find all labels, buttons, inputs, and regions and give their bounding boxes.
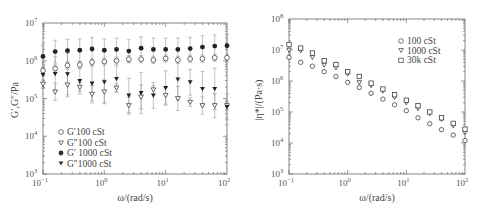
y-tick-label: 104 — [271, 136, 284, 148]
open-triangle-marker — [41, 82, 46, 86]
open-circle-marker — [225, 55, 230, 60]
right-legend: 100 cSt 1000 cSt 30k cSt — [399, 36, 441, 65]
open-circle-marker — [151, 58, 156, 63]
open-square-marker — [345, 69, 349, 73]
right-tick-labels: 10−1100101102103104105106107108 — [271, 12, 468, 188]
legend-open-circle-icon — [59, 130, 64, 135]
open-circle-marker — [41, 68, 46, 73]
y-tick-label: 108 — [271, 12, 283, 24]
right-x-axis-title: ω/(rad/s) — [359, 192, 394, 204]
filled-triangle-marker — [212, 87, 217, 91]
open-circle-marker — [369, 91, 373, 95]
filled-circle-marker — [175, 47, 180, 52]
open-square-marker — [439, 116, 443, 120]
x-tick-label: 102 — [218, 176, 230, 188]
y-tick-label: 104 — [25, 129, 38, 141]
open-square-marker — [334, 62, 338, 66]
legend-label-30kcst: 30k cSt — [407, 55, 436, 65]
filled-circle-marker — [163, 47, 168, 52]
filled-circle-marker — [151, 47, 156, 52]
filled-circle-marker — [53, 49, 58, 54]
open-circle-marker — [188, 56, 193, 61]
open-circle-marker — [90, 60, 95, 65]
legend-open-triangle-icon — [399, 49, 404, 53]
left-data-points — [41, 34, 230, 119]
legend-open-square-icon — [399, 58, 403, 62]
open-circle-marker — [345, 80, 349, 84]
filled-triangle-marker — [102, 80, 107, 84]
open-triangle-marker — [151, 88, 156, 92]
open-triangle-marker — [310, 56, 314, 60]
open-triangle-marker — [322, 63, 326, 67]
filled-triangle-marker — [200, 87, 205, 91]
open-square-marker — [322, 59, 326, 63]
open-triangle-marker — [77, 85, 82, 89]
open-square-marker — [463, 127, 467, 131]
filled-triangle-marker — [41, 73, 46, 77]
open-circle-marker — [404, 109, 408, 113]
open-triangle-marker — [188, 100, 193, 104]
legend-label-1000cst: 1000 cSt — [407, 46, 441, 56]
filled-circle-marker — [77, 48, 82, 53]
open-triangle-marker — [139, 95, 144, 99]
open-circle-marker — [334, 74, 338, 78]
right-y-axis-title: |η*|/(Pa·s) — [253, 80, 265, 121]
left-legend: G′100 cSt G″100 cSt G′ 1000 cSt G″1000 c… — [59, 127, 113, 169]
open-circle-marker — [428, 121, 432, 125]
open-triangle-marker — [65, 83, 70, 87]
open-square-marker — [428, 110, 432, 114]
filled-circle-marker — [200, 45, 205, 50]
right-axis-ticks — [289, 19, 465, 174]
open-square-marker — [369, 81, 373, 85]
right-data-points — [287, 42, 467, 143]
open-circle-marker — [139, 57, 144, 62]
legend-label-gdoubleprime-1000: G″1000 cSt — [67, 159, 112, 169]
filled-triangle-marker — [126, 94, 131, 98]
open-square-marker — [392, 93, 396, 97]
left-y-axis-title: G′,G″/Pa — [9, 81, 20, 118]
open-circle-marker — [451, 133, 455, 137]
legend-open-circle-icon — [399, 39, 404, 44]
open-circle-marker — [77, 62, 82, 67]
open-circle-marker — [102, 59, 107, 64]
y-tick-label: 105 — [25, 92, 37, 104]
filled-circle-marker — [212, 44, 217, 49]
x-tick-label: 100 — [339, 176, 351, 188]
open-triangle-marker — [212, 104, 217, 108]
open-square-marker — [357, 74, 361, 78]
x-tick-label: 101 — [397, 176, 409, 188]
filled-triangle-marker — [65, 72, 70, 76]
filled-triangle-marker — [151, 94, 156, 98]
filled-circle-marker — [188, 46, 193, 51]
open-circle-marker — [298, 60, 302, 64]
x-tick-label: 100 — [95, 176, 107, 188]
open-triangle-marker — [163, 94, 168, 98]
open-triangle-marker — [53, 90, 58, 94]
open-circle-marker — [381, 97, 385, 101]
x-tick-label: 101 — [157, 176, 169, 188]
open-triangle-marker — [102, 90, 107, 94]
y-tick-label: 105 — [271, 105, 283, 117]
open-circle-marker — [175, 58, 180, 63]
left-tick-labels: 10−1100101102103104105106107 — [25, 16, 230, 188]
open-circle-marker — [287, 55, 291, 59]
open-circle-marker — [163, 56, 168, 61]
open-triangle-marker — [90, 92, 95, 96]
filled-circle-marker — [41, 54, 46, 59]
filled-circle-marker — [126, 49, 131, 54]
y-tick-label: 107 — [271, 43, 284, 55]
open-circle-marker — [200, 56, 205, 61]
x-tick-label: 102 — [456, 176, 468, 188]
open-triangle-marker — [126, 104, 131, 108]
filled-triangle-marker — [90, 82, 95, 86]
filled-circle-marker — [139, 46, 144, 51]
figure: 10−1100101102103104105106107 G′,G″/Pa ω/… — [0, 0, 483, 208]
y-tick-label: 107 — [25, 16, 38, 28]
open-square-marker — [310, 51, 314, 55]
open-circle-marker — [357, 85, 361, 89]
filled-triangle-marker — [175, 78, 180, 82]
open-square-marker — [451, 121, 455, 125]
legend-label-gprime-100: G′100 cSt — [67, 127, 105, 137]
right-chart-complex-viscosity: 10−1100101102103104105106107108 |η*|/(Pa… — [253, 12, 468, 204]
filled-circle-marker — [65, 48, 70, 53]
